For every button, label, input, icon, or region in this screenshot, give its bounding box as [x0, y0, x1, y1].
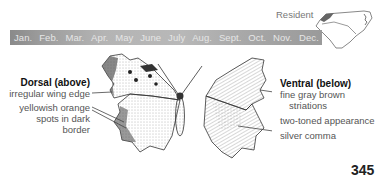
month-oct: Oct.: [248, 32, 266, 43]
dorsal-note-spots-2: spots in dark: [4, 113, 90, 124]
month-jun: June: [140, 32, 161, 43]
month-may: May: [115, 32, 133, 43]
range-map-icon: [312, 8, 382, 52]
butterfly-illustration: [92, 46, 272, 180]
month-apr: Apr.: [91, 32, 108, 43]
dorsal-title: Dorsal (above): [4, 77, 90, 88]
ventral-note-striations-1: fine gray brown: [280, 89, 390, 100]
dorsal-note-spots-3: border: [4, 124, 90, 135]
flight-season-bar: Jan. Feb. Mar. Apr. May June July Aug. S…: [10, 30, 322, 45]
ventral-note-two-toned: two-toned appearance: [280, 115, 390, 126]
ventral-labels: Ventral (below) fine gray brown striatio…: [280, 78, 390, 141]
month-jan: Jan.: [14, 32, 32, 43]
month-feb: Feb.: [39, 32, 58, 43]
month-aug: Aug.: [192, 32, 212, 43]
dorsal-labels: Dorsal (above) irregular wing edge yello…: [4, 77, 90, 135]
dorsal-note-spots-1: yellowish orange: [4, 102, 90, 113]
month-dec: Dec.: [299, 32, 319, 43]
ventral-note-silver-comma: silver comma: [280, 130, 390, 141]
dorsal-note-wing-edge: irregular wing edge: [4, 88, 90, 99]
ventral-title: Ventral (below): [280, 78, 390, 89]
ventral-note-striations-2: striations: [280, 100, 390, 111]
month-nov: Nov.: [273, 32, 292, 43]
resident-label: Resident: [276, 9, 314, 20]
month-jul: July: [168, 32, 185, 43]
month-sep: Sept.: [219, 32, 242, 43]
page-number: 345: [351, 162, 374, 178]
month-mar: Mar.: [65, 32, 84, 43]
